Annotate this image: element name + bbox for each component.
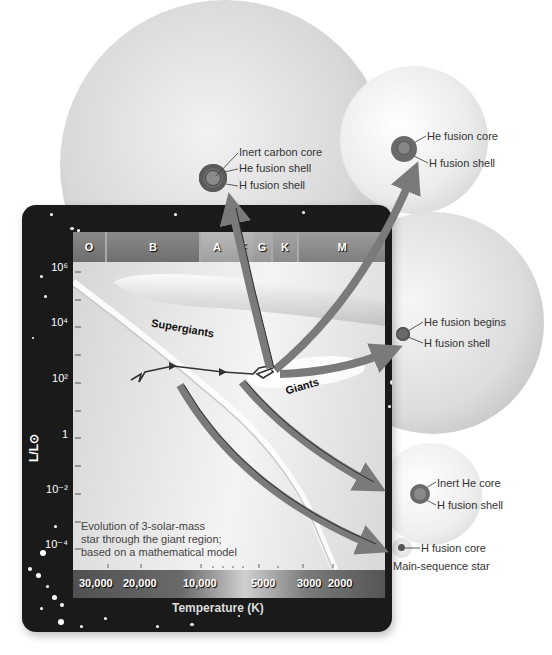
he-flash-star-core — [396, 327, 410, 341]
label-h-fusion-shell: H fusion shell — [424, 337, 490, 349]
label-h-fusion-shell: H fusion shell — [239, 179, 305, 191]
he-fusion-core — [397, 141, 411, 155]
label-he-fusion-begins: He fusion begins — [424, 316, 506, 328]
he-core-star-core — [391, 136, 417, 162]
label-h-fusion-shell: H fusion shell — [429, 157, 495, 169]
label-main-sequence-star: Main-sequence star — [393, 560, 490, 572]
label-h-fusion-shell: H fusion shell — [437, 499, 503, 511]
inert-he-star-core — [410, 484, 430, 504]
label-he-fusion-shell: He fusion shell — [239, 162, 311, 174]
label-inert-he-core: Inert He core — [437, 477, 501, 489]
label-he-fusion-core: He fusion core — [427, 130, 498, 142]
label-h-fusion-core: H fusion core — [421, 542, 486, 554]
inert-he-core — [414, 488, 426, 500]
label-inert-carbon-core: Inert carbon core — [239, 146, 322, 158]
main-sequence-star-core — [398, 544, 405, 551]
